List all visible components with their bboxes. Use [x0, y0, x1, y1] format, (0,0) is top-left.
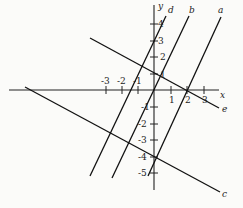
line-c [25, 87, 220, 192]
x-tick-label: -3 [101, 76, 110, 86]
x-tick-label: 3 [202, 95, 208, 105]
y-tick-label: 1 [160, 70, 166, 80]
x-tick-label: -2 [117, 76, 126, 86]
diagram: -3 -2 -1 1 2 3 4 3 2 1 -1 -2 -3 -4 -5 x … [0, 0, 243, 208]
x-tick-label: 2 [185, 95, 191, 105]
x-tick-label: 1 [169, 95, 175, 105]
y-tick-label: 3 [158, 36, 164, 46]
line-label-c: c [222, 189, 227, 199]
line-label-a: a [218, 5, 223, 15]
x-tick-label: -1 [133, 76, 142, 86]
line-label-d: d [168, 5, 174, 15]
x-axis-label: x [220, 90, 225, 100]
y-tick-label: -5 [138, 168, 147, 178]
coordinate-plane: -3 -2 -1 1 2 3 4 3 2 1 -1 -2 -3 -4 -5 x … [0, 0, 243, 208]
line-label-e: e [222, 104, 227, 114]
y-tick-label: -4 [138, 152, 147, 162]
line-b [112, 16, 189, 178]
y-tick-label: -1 [141, 102, 150, 112]
y-tick-label: -2 [138, 119, 147, 129]
line-d [90, 16, 166, 176]
y-axis-label: y [157, 1, 164, 11]
y-tick-label: 2 [160, 52, 166, 62]
y-tick-label: -3 [138, 135, 147, 145]
line-label-b: b [189, 5, 195, 15]
y-tick-label: 4 [158, 19, 164, 29]
